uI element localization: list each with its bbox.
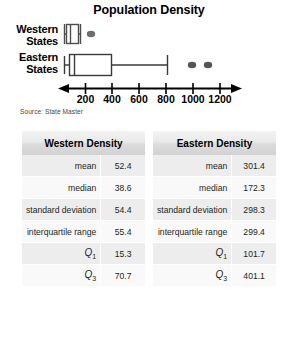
western-box: [67, 25, 79, 44]
axis-tick-label-1200: 1200: [203, 93, 237, 105]
western-density-body: mean52.4median38.6standard deviation54.4…: [22, 155, 145, 286]
stat-label: interquartile range: [22, 221, 101, 243]
table-row: Q370.7: [22, 265, 145, 287]
eastern-density-table: Eastern Density mean301.4median172.3stan…: [153, 131, 276, 286]
table-row: median38.6: [22, 177, 145, 199]
stat-value: 15.3: [101, 243, 145, 265]
quartile-symbol: Q3: [85, 269, 97, 280]
stat-value: 401.1: [232, 265, 276, 287]
stat-value: 172.3: [232, 177, 276, 199]
stat-value: 298.3: [232, 199, 276, 221]
stat-label: standard deviation: [22, 199, 101, 221]
quartile-symbol: Q3: [216, 269, 228, 280]
eastern-box: [70, 55, 112, 76]
stat-label: mean: [22, 155, 101, 177]
table-row: mean52.4: [22, 155, 145, 177]
western-density-header: Western Density: [22, 131, 145, 155]
quartile-symbol: Q1: [216, 247, 228, 258]
stat-label: median: [153, 177, 232, 199]
stat-value: 101.7: [232, 243, 276, 265]
stat-value: 38.6: [101, 177, 145, 199]
stat-label: interquartile range: [153, 221, 232, 243]
stat-value: 52.4: [101, 155, 145, 177]
eastern-outlier-point-1: [188, 62, 196, 69]
table-row: median172.3: [153, 177, 276, 199]
western-outlier-point: [87, 31, 95, 38]
table-row: mean301.4: [153, 155, 276, 177]
boxplot-western: [65, 24, 96, 44]
quartile-symbol: Q1: [85, 247, 97, 258]
stat-label: Q1: [22, 243, 101, 265]
stat-value: 70.7: [101, 265, 145, 287]
boxplot-svg: [0, 0, 298, 100]
stat-label: Q3: [153, 265, 232, 287]
table-row: Q1101.7: [153, 243, 276, 265]
stat-value: 301.4: [232, 155, 276, 177]
eastern-density-body: mean301.4median172.3standard deviation29…: [153, 155, 276, 286]
stat-label: median: [22, 177, 101, 199]
stat-label: Q3: [22, 265, 101, 287]
statistics-tables: Western Density mean52.4median38.6standa…: [0, 131, 298, 286]
stat-label: Q1: [153, 243, 232, 265]
stat-label: standard deviation: [153, 199, 232, 221]
stat-value: 54.4: [101, 199, 145, 221]
table-row: Q115.3: [22, 243, 145, 265]
stat-label: mean: [153, 155, 232, 177]
table-row: Q3401.1: [153, 265, 276, 287]
table-row: interquartile range55.4: [22, 221, 145, 243]
table-row: interquartile range299.4: [153, 221, 276, 243]
table-row: standard deviation54.4: [22, 199, 145, 221]
stat-value: 55.4: [101, 221, 145, 243]
boxplot-eastern: [65, 55, 213, 76]
chart-source-note: Source: State Master: [20, 108, 83, 115]
axis-arrow-left: [58, 84, 69, 93]
western-density-table: Western Density mean52.4median38.6standa…: [22, 131, 145, 286]
eastern-density-header: Eastern Density: [153, 131, 276, 155]
axis-arrow-right: [231, 84, 242, 93]
stat-value: 299.4: [232, 221, 276, 243]
eastern-outlier-point-2: [204, 62, 212, 69]
table-row: standard deviation298.3: [153, 199, 276, 221]
boxplot-chart: Population Density Western States Easter…: [0, 0, 298, 127]
